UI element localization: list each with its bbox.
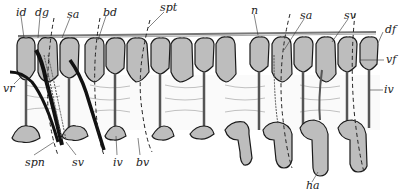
label-sa-right: sa xyxy=(300,10,312,21)
label-vf: vf xyxy=(386,54,396,65)
label-dg: dg xyxy=(35,7,49,18)
label-ha: ha xyxy=(306,180,320,191)
label-vr: vr xyxy=(3,83,14,94)
label-id: id xyxy=(16,7,27,18)
label-bv: bv xyxy=(136,157,149,168)
label-sv-bottom: sv xyxy=(72,157,84,168)
label-sa-left: sa xyxy=(67,9,79,20)
label-bd: bd xyxy=(103,7,117,18)
label-iv-right: iv xyxy=(384,84,394,95)
label-spt: spt xyxy=(160,2,177,13)
label-df: df xyxy=(385,24,396,35)
vertebral-column-diagram: id dg sa bd spt n sa sv df vf iv vr spn … xyxy=(0,0,402,194)
label-spn: spn xyxy=(25,157,45,168)
label-sv-top: sv xyxy=(344,10,356,21)
label-n: n xyxy=(251,5,258,16)
label-iv-bottom: iv xyxy=(113,157,123,168)
diagram-drawing xyxy=(0,0,402,194)
